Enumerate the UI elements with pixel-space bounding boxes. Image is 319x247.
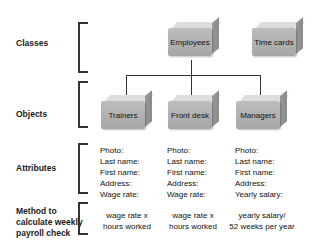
row-label-classes: Classes bbox=[16, 38, 48, 49]
attributes-managers: Photo: Last name: First name: Address: Y… bbox=[235, 145, 283, 200]
method-managers: yearly salary/ 52 weeks per year bbox=[222, 210, 302, 232]
row-label-method: Method to calculate weekly payroll check bbox=[16, 206, 83, 239]
row-label-objects: Objects bbox=[16, 109, 47, 120]
class-box-time-cards: Time cards bbox=[252, 22, 304, 56]
bracket-attributes bbox=[78, 143, 88, 194]
class-box-employees: Employees bbox=[168, 22, 220, 56]
object-box-managers: Managers bbox=[236, 95, 288, 129]
connector-front-desk bbox=[191, 75, 192, 95]
object-box-trainers: Trainers bbox=[101, 95, 153, 129]
connector-employees-down bbox=[191, 60, 192, 76]
attributes-trainers: Photo: Last name: First name: Address: W… bbox=[100, 145, 140, 200]
attributes-front-desk: Photo: Last name: First name: Address: W… bbox=[167, 145, 207, 200]
connector-trainers bbox=[126, 75, 127, 95]
object-box-front-desk: Front desk bbox=[168, 95, 220, 129]
connector-managers bbox=[260, 75, 261, 95]
bracket-objects bbox=[78, 81, 88, 128]
method-front-desk: wage rate x hours worked bbox=[153, 210, 233, 232]
bracket-classes bbox=[78, 22, 88, 73]
connector-horizontal bbox=[126, 75, 261, 76]
row-label-attributes: Attributes bbox=[16, 163, 56, 174]
